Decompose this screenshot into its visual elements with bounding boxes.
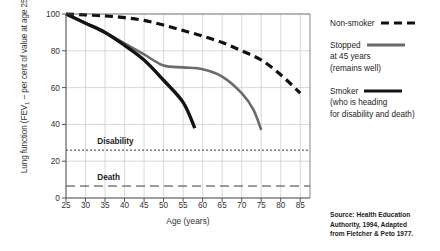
source-note: Source: Health Education Authority, 1994… (330, 210, 438, 239)
x-axis-tick-label: 50 (159, 201, 168, 210)
y-axis-tick-label: 60 (51, 83, 60, 93)
chart-container: Lung function (FEV1 – per cent of value … (0, 0, 440, 251)
x-axis-title: Age (years) (66, 216, 310, 226)
legend-entry: Stoppedat 45 years(remains well) (330, 40, 438, 74)
plot-svg (66, 14, 310, 198)
x-axis-tick-label: 55 (179, 201, 188, 210)
legend-label: Stopped (330, 41, 361, 50)
x-axis-tick-label: 45 (140, 201, 149, 210)
source-line-3: from Fletcher & Peto 1977. (330, 229, 438, 239)
legend-entry: Smoker(who is headingfor disability and … (330, 86, 438, 120)
legend-row: Stopped (330, 40, 438, 50)
legend-entry: Non-smoker (330, 18, 438, 28)
reference-label-disability: Disability (97, 137, 133, 146)
chart-legend: Non-smokerStoppedat 45 years(remains wel… (330, 18, 438, 132)
y-axis-title-host: Lung function (FEV1 – per cent of value … (8, 10, 26, 200)
x-axis-tick-label: 65 (218, 201, 227, 210)
legend-row: Smoker (330, 86, 438, 96)
legend-line-sample (366, 40, 406, 50)
legend-sublabel: at 45 years (330, 51, 438, 62)
legend-line-sample (380, 18, 420, 28)
source-line-1: Source: Health Education (330, 210, 438, 220)
x-axis-tick-label: 30 (81, 201, 90, 210)
reference-label-death: Death (97, 173, 120, 182)
legend-row: Non-smoker (330, 18, 438, 28)
x-axis-tick-label: 75 (257, 201, 266, 210)
plot-area (66, 14, 310, 198)
y-axis-tick-label: 100 (46, 9, 60, 19)
legend-label: Non-smoker (330, 19, 375, 28)
x-axis-tick-label: 70 (237, 201, 246, 210)
legend-sublabel: for disability and death) (330, 109, 438, 120)
x-axis-tick-label: 35 (100, 201, 109, 210)
x-axis-tick-label: 60 (198, 201, 207, 210)
x-axis-tick-label: 25 (61, 201, 70, 210)
legend-label: Smoker (330, 87, 358, 96)
y-axis-tick-label: 80 (51, 46, 60, 56)
y-axis-tick-label: 20 (51, 156, 60, 166)
legend-line-sample (363, 86, 403, 96)
x-axis-tick-label: 80 (276, 201, 285, 210)
legend-sublabel: (remains well) (330, 63, 438, 74)
legend-sublabel: (who is heading (330, 97, 438, 108)
y-axis-tick-label: 40 (51, 119, 60, 129)
x-axis-tick-label: 40 (120, 201, 129, 210)
source-line-2: Authority, 1994, Adapted (330, 220, 438, 230)
x-axis-tick-label: 85 (296, 201, 305, 210)
